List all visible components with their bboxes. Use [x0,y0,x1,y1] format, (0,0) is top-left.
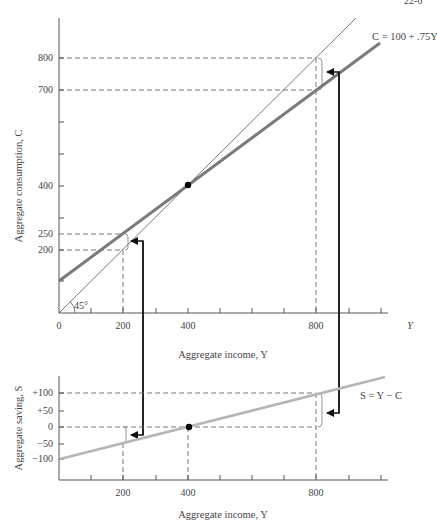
y-label-minus100: −100 [32,453,53,464]
arrow-to-top-800 [327,72,339,413]
y-label-800: 800 [38,52,53,63]
top-y-axis-title: Aggregate consumption, C [13,130,24,243]
y-label-400: 400 [38,180,53,191]
bottom-x-label-200: 200 [116,487,131,498]
top-x-ticks [91,308,381,313]
y-label-700: 700 [38,84,53,95]
arrow-to-bottom-800 [327,72,339,413]
bracket-saving-200 [123,427,126,442]
bottom-y-axis-title: Aggregate saving, S [13,385,24,470]
line-45-degree [59,18,356,313]
y-label-250: 250 [38,228,53,239]
saving-line [60,377,385,459]
consumption-chart: 45° C = 100 + .75Y 800 700 400 250 200 0… [13,18,437,360]
bottom-x-label-400: 400 [181,487,196,498]
y-label-plus50: +50 [37,405,53,416]
bottom-y-ticks [59,393,64,459]
x-label-200: 200 [116,320,131,331]
figure-label: 22-6 [404,0,422,6]
x-label-800: 800 [309,320,324,331]
figure: 22-6 [0,0,437,527]
arrow-to-bottom-200 [131,241,143,435]
saving-equation: S = Y − C [360,390,402,401]
connector-arrows [131,72,339,435]
saving-chart: S = Y − C +100 +50 0 −50 −100 200 400 80… [13,376,402,520]
bracket-dissaving-200 [125,234,128,250]
consumption-line [59,43,380,281]
x-axis-end-label: Y [407,320,414,331]
angle-label: 45° [74,300,88,311]
bracket-saving-800 [318,393,322,427]
bottom-x-axis-title: Aggregate income, Y [178,509,268,520]
y-label-zero: 0 [48,421,53,432]
consumption-equation: C = 100 + .75Y [372,31,437,42]
x-label-400: 400 [181,320,196,331]
top-x-axis-title: Aggregate income, Y [178,349,268,360]
bottom-x-label-800: 800 [309,487,324,498]
x-label-0: 0 [57,320,62,331]
bottom-reference-lines [59,393,316,480]
arrow-to-top-200 [131,241,143,435]
y-label-plus100: +100 [32,387,53,398]
y-label-200: 200 [38,244,53,255]
break-even-point [185,182,191,188]
top-y-ticks [59,58,64,281]
bottom-x-ticks [91,475,381,480]
y-label-minus50: −50 [37,438,53,449]
zero-saving-point [186,424,192,430]
